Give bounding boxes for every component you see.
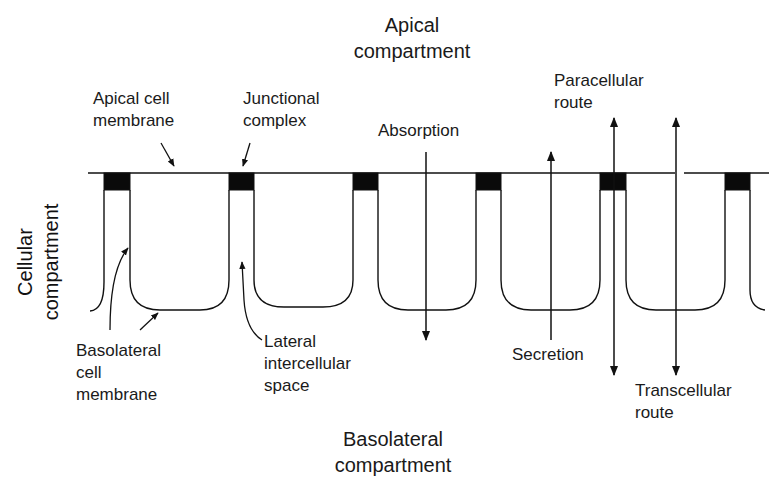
- junctional-complex-pointer: [243, 143, 250, 166]
- junctional-complexes: [104, 173, 750, 190]
- junction-block: [229, 173, 254, 190]
- apical-membrane-pointer: [161, 143, 174, 166]
- junctional-complex-label: Junctional complex: [243, 88, 320, 132]
- secretion-label: Secretion: [512, 344, 584, 366]
- absorption-label: Absorption: [378, 120, 459, 142]
- junction-block: [476, 173, 501, 190]
- basolateral-membrane-pointer-lateral: [110, 248, 128, 330]
- junction-block: [725, 173, 750, 190]
- cell-outlines: [90, 190, 765, 311]
- junction-block: [600, 173, 626, 190]
- junction-block: [353, 173, 378, 190]
- basolateral-membrane-pointer-base: [140, 313, 158, 330]
- transcellular-route-label: Transcellular route: [635, 380, 732, 424]
- paracellular-route-label: Paracellular route: [554, 70, 644, 114]
- junction-block: [104, 173, 130, 190]
- lateral-intercellular-space-label: Lateral intercellular space: [264, 331, 351, 397]
- basolateral-compartment-label: Basolateral compartment: [318, 426, 468, 478]
- apical-cell-membrane-label: Apical cell membrane: [93, 88, 174, 132]
- basolateral-cell-membrane-label: Basolateral cell membrane: [76, 340, 161, 406]
- lateral-space-pointer: [242, 262, 262, 340]
- apical-compartment-label: Apical compartment: [342, 12, 482, 64]
